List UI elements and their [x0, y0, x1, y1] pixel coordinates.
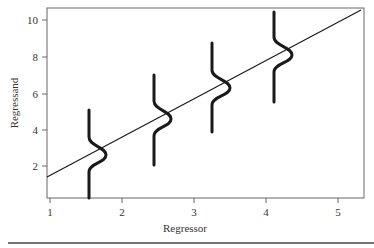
y-axis-label: Regressand: [8, 77, 20, 128]
x-tick-label: 3: [191, 206, 197, 218]
y-tick-label: 8: [33, 51, 39, 63]
x-tick-label: 2: [119, 206, 125, 218]
x-tick-label: 5: [335, 206, 341, 218]
x-tick-label: 4: [263, 206, 269, 218]
y-tick-label: 2: [33, 160, 39, 172]
x-tick-label: 1: [47, 206, 53, 218]
y-axis: 10 8 6 4 2: [27, 14, 47, 172]
regression-chart: 10 8 6 4 2 1 2 3 4 5 Regressor Regressan…: [0, 0, 374, 248]
x-axis-label: Regressor: [163, 222, 207, 234]
y-tick-label: 4: [33, 124, 39, 136]
y-tick-label: 6: [33, 88, 39, 100]
regression-line: [47, 10, 361, 177]
x-axis: 1 2 3 4 5: [47, 198, 341, 218]
y-tick-label: 10: [27, 14, 39, 26]
distribution-curve: [89, 110, 106, 198]
conditional-distributions: [89, 12, 292, 198]
plot-frame: [47, 8, 364, 198]
distribution-curve: [154, 75, 171, 165]
distribution-curve: [274, 12, 292, 102]
